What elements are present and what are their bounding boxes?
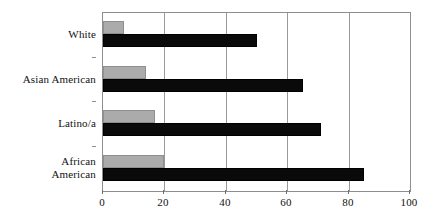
category-tick-2 (92, 101, 96, 102)
bars-layer (103, 13, 410, 191)
bar-black-series-1 (103, 79, 303, 92)
x-tick-40 (225, 190, 226, 194)
category-tick-1 (92, 57, 96, 58)
x-tick-20 (163, 190, 164, 194)
x-tick-100 (409, 190, 410, 194)
category-label-0: White (0, 28, 96, 41)
category-tick-3 (92, 146, 96, 147)
plot-area (102, 12, 411, 192)
x-tick-label-60: 60 (280, 196, 291, 209)
x-tick-label-20: 20 (157, 196, 168, 209)
category-label-1: Asian American (0, 73, 96, 86)
category-axis: WhiteAsian AmericanLatino/aAfrican Ameri… (0, 12, 96, 190)
x-tick-60 (286, 190, 287, 194)
bar-gray-series-0 (103, 21, 124, 34)
x-tick-label-0: 0 (99, 196, 105, 209)
category-label-2: Latino/a (0, 117, 96, 130)
bar-black-series-2 (103, 123, 321, 136)
x-tick-label-100: 100 (400, 196, 417, 209)
category-label-3: African American (0, 155, 96, 180)
bar-black-series-3 (103, 168, 364, 181)
bar-gray-series-1 (103, 66, 146, 79)
bar-black-series-0 (103, 34, 257, 47)
bar-chart: WhiteAsian AmericanLatino/aAfrican Ameri… (0, 0, 431, 220)
x-tick-label-80: 80 (342, 196, 353, 209)
x-tick-80 (348, 190, 349, 194)
x-tick-label-40: 40 (219, 196, 230, 209)
value-axis: 020406080100 (102, 190, 410, 220)
bar-gray-series-2 (103, 110, 155, 123)
x-tick-0 (102, 190, 103, 194)
bar-gray-series-3 (103, 155, 164, 168)
